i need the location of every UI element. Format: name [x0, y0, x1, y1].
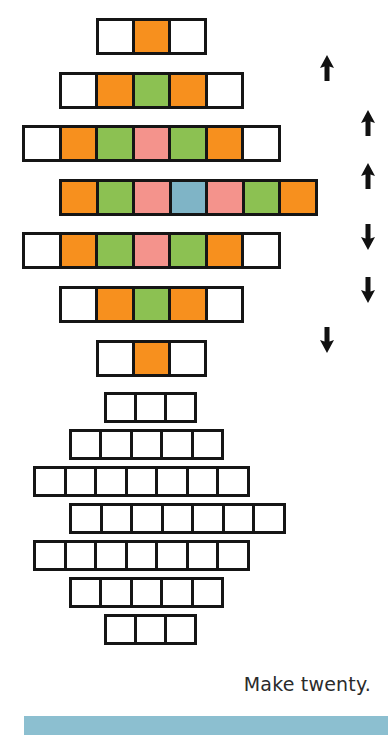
diamond-row-5	[33, 540, 250, 571]
diamond-cell-green	[103, 506, 134, 531]
diamond-cell-white	[219, 543, 247, 568]
diamond-cell-orange	[189, 543, 220, 568]
diamond-cell-orange	[72, 506, 103, 531]
diamond-cell-orange	[67, 469, 98, 494]
arrow-layer	[0, 0, 388, 392]
arrow-up-1-icon	[319, 55, 335, 81]
diamond-cell-orange	[102, 580, 132, 605]
diamond-cell-orange	[137, 617, 167, 642]
diamond-cell-white	[72, 432, 102, 457]
diamond-cell-blue	[164, 506, 195, 531]
arrow-up-3-icon	[360, 163, 376, 189]
diamond-figure	[0, 392, 388, 660]
diamond-cell-pink	[128, 469, 159, 494]
diamond-row-4	[69, 503, 286, 534]
diamond-cell-green	[225, 506, 256, 531]
arrow-down-2-icon	[360, 277, 376, 303]
diamond-cell-orange	[163, 432, 193, 457]
arrow-up-2-icon	[360, 110, 376, 136]
diamond-cell-white	[72, 580, 102, 605]
diamond-cell-orange	[102, 432, 132, 457]
diamond-cell-pink	[128, 543, 159, 568]
diamond-cell-white	[36, 543, 67, 568]
arrow-down-3-icon	[319, 327, 335, 353]
diamond-cell-white	[219, 469, 247, 494]
diamond-row-7	[104, 614, 197, 645]
diamond-cell-green	[158, 469, 189, 494]
diamond-cell-white	[194, 432, 221, 457]
diamond-row-2	[69, 429, 224, 460]
diamond-cell-white	[107, 395, 137, 420]
diamond-cell-green	[97, 469, 128, 494]
diamond-row-3	[33, 466, 250, 497]
diamond-cell-white	[194, 580, 221, 605]
diamond-cell-orange	[67, 543, 98, 568]
diamond-row-6	[69, 577, 224, 608]
diamond-cell-green	[158, 543, 189, 568]
diamond-cell-orange	[163, 580, 193, 605]
diamond-row-1	[104, 392, 197, 423]
bottom-color-band	[24, 716, 388, 735]
diamond-cell-white	[36, 469, 67, 494]
diamond-cell-orange	[189, 469, 220, 494]
diamond-cell-white	[167, 617, 194, 642]
diamond-cell-white	[107, 617, 137, 642]
diamond-cell-pink	[194, 506, 225, 531]
diamond-cell-white	[167, 395, 194, 420]
caption-text: Make twenty.	[244, 673, 371, 695]
diamond-cell-orange	[137, 395, 167, 420]
diamond-cell-green	[133, 580, 163, 605]
diamond-cell-pink	[133, 506, 164, 531]
diamond-cell-green	[97, 543, 128, 568]
diamond-cell-orange	[255, 506, 283, 531]
arrow-down-1-icon	[360, 224, 376, 250]
diamond-cell-green	[133, 432, 163, 457]
